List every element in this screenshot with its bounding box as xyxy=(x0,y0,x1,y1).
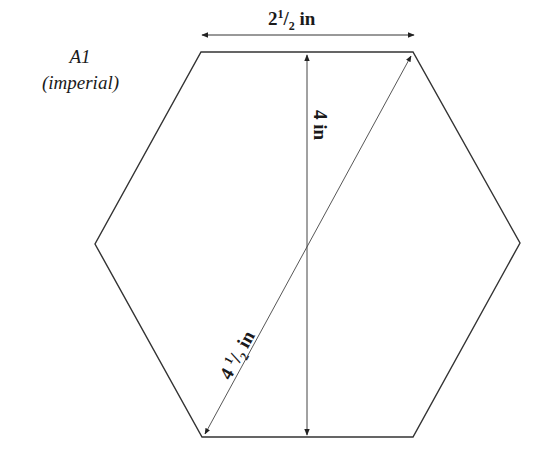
figure-title: A1 xyxy=(60,46,100,68)
figure-subtitle: (imperial) xyxy=(23,72,138,94)
diagonal-denominator: 2 xyxy=(237,350,252,362)
side-denominator: 2 xyxy=(289,19,295,33)
side-numerator: 1 xyxy=(278,7,284,21)
side-dimension-label: 21/2 in xyxy=(268,7,315,34)
height-dimension-label: 4 in xyxy=(309,110,331,140)
side-unit: in xyxy=(300,8,316,29)
side-whole: 2 xyxy=(268,8,278,29)
